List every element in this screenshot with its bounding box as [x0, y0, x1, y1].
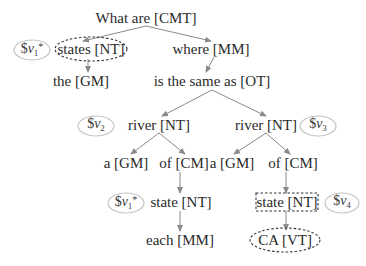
- variable-label-v2: $v2: [87, 116, 105, 136]
- tree-node-where: where [MM]: [172, 41, 249, 57]
- tree-edge-arrow: [83, 26, 146, 41]
- tree-edge-arrow: [146, 26, 211, 41]
- tree-node-each: each [MM]: [146, 232, 214, 248]
- tree-node-what: What are [CMT]: [96, 10, 197, 26]
- tree-node-of-r: of [CM]: [268, 155, 318, 171]
- variable-label-v1b: $v1*: [115, 192, 138, 214]
- variable-label-v4: $v4: [333, 193, 351, 213]
- tree-node-same: is the same as [OT]: [154, 73, 271, 89]
- tree-edge-arrow: [162, 90, 212, 116]
- tree-node-a-r: a [GM]: [210, 155, 255, 171]
- tree-node-of-l: of [CM]: [159, 155, 209, 171]
- tree-edge-arrow: [212, 90, 266, 116]
- query-parse-tree-diagram: What are [CMT]states [NT]where [MM]the […: [0, 0, 366, 266]
- tree-node-state-l: state [NT]: [150, 194, 211, 210]
- tree-edge-arrow: [131, 133, 159, 154]
- tree-node-river-l: river [NT]: [128, 117, 190, 133]
- tree-node-state-r: state [NT]: [256, 194, 317, 210]
- tree-edge-arrow: [234, 133, 266, 154]
- tree-node-the: the [GM]: [53, 73, 109, 89]
- tree-node-river-r: river [NT]: [235, 117, 297, 133]
- tree-edge-arrow: [266, 133, 290, 154]
- tree-node-a-l: a [GM]: [104, 155, 149, 171]
- tree-node-states: states [NT]: [57, 41, 124, 57]
- variable-label-v3: $v3: [309, 116, 327, 136]
- tree-node-ca: CA [VT]: [258, 232, 312, 248]
- tree-edge-arrow: [206, 57, 214, 72]
- variable-label-v1a: $v1*: [21, 39, 44, 61]
- tree-edge-arrow: [159, 133, 185, 154]
